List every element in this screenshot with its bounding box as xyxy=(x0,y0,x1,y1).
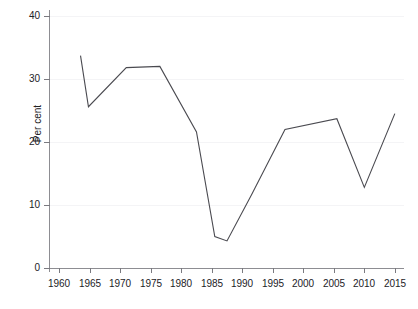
series-line-per-cent xyxy=(81,56,395,241)
line-chart: 010203040 196019651970197519801985199019… xyxy=(0,0,418,309)
series-layer xyxy=(0,0,418,309)
